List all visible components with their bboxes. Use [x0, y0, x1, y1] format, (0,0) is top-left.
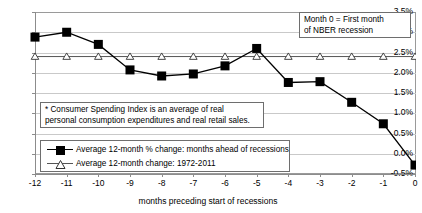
y-axis-tick-label: 0.0% — [394, 149, 413, 158]
x-axis-tick-label: -4 — [273, 178, 303, 188]
x-axis-tick-label: 0 — [400, 178, 422, 188]
gridline — [35, 134, 416, 135]
x-axis-tick — [98, 174, 99, 177]
x-axis-tick-label: -6 — [210, 178, 240, 188]
y-axis-tick-label: 0.5% — [394, 129, 413, 138]
legend-item-primary: Average 12-month % change: months ahead … — [47, 143, 289, 157]
x-axis-tick — [225, 174, 226, 177]
x-axis-tick — [415, 174, 416, 177]
x-axis-tick — [130, 174, 131, 177]
legend-item-secondary: Average 12-month change: 1972-2011 — [47, 157, 215, 171]
x-axis-tick — [67, 174, 68, 177]
x-axis-tick — [35, 174, 36, 177]
x-axis-tick-label: -2 — [337, 178, 367, 188]
legend-label-primary: Average 12-month % change: months ahead … — [76, 145, 289, 156]
x-axis-title: months preceding start of recessions — [0, 196, 416, 206]
x-axis-tick — [383, 174, 384, 177]
y-axis-line — [35, 12, 36, 175]
filled-square-marker-icon — [47, 144, 73, 156]
open-triangle-marker-icon — [47, 158, 73, 170]
x-axis-tick — [320, 174, 321, 177]
month-zero-note-line1: Month 0 = First month — [304, 15, 406, 26]
y-axis-tick-label: 1.0% — [394, 108, 413, 117]
month-zero-note: Month 0 = First month of NBER recession — [299, 12, 411, 38]
gridline — [35, 53, 416, 54]
y-axis-tick-label: 1.5% — [394, 88, 413, 97]
x-axis-tick-label: -1 — [368, 178, 398, 188]
x-axis-tick — [257, 174, 258, 177]
x-axis-tick — [288, 174, 289, 177]
csi-note-line1: * Consumer Spending Index is an average … — [45, 105, 259, 116]
x-axis-tick-label: -10 — [83, 178, 113, 188]
y-axis-tick-label: 2.0% — [394, 68, 413, 77]
x-axis-tick-label: -9 — [115, 178, 145, 188]
x-axis-tick — [193, 174, 194, 177]
gridline — [35, 73, 416, 74]
legend: Average 12-month % change: months ahead … — [40, 140, 290, 172]
x-axis-tick-label: -5 — [242, 178, 272, 188]
month-zero-note-line2: of NBER recession — [304, 26, 406, 37]
gridline — [35, 93, 416, 94]
x-axis-tick — [162, 174, 163, 177]
legend-label-secondary: Average 12-month change: 1972-2011 — [76, 159, 215, 170]
consumer-spending-index-note: * Consumer Spending Index is an average … — [40, 102, 264, 128]
x-axis-tick-label: -11 — [52, 178, 82, 188]
x-axis-tick-label: -7 — [178, 178, 208, 188]
y-axis-tick-label: 2.5% — [394, 48, 413, 57]
x-axis-tick-label: -12 — [20, 178, 50, 188]
csi-note-line2: personal consumption expenditures and re… — [45, 116, 259, 127]
x-axis-tick-label: -8 — [147, 178, 177, 188]
x-axis-tick-label: -3 — [305, 178, 335, 188]
x-axis-tick — [352, 174, 353, 177]
